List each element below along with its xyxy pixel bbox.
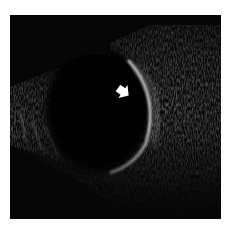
ultrasound-image [10,15,221,219]
ultrasound-frame [10,15,221,219]
